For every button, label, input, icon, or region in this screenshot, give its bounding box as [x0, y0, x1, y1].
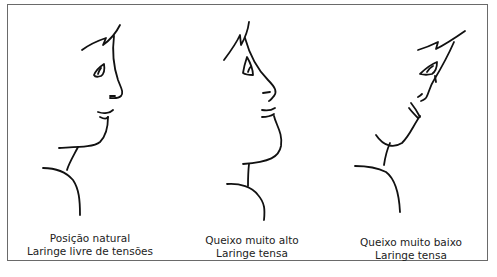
- caption-chin-low: Queixo muito baixo Laringe tensa: [331, 236, 491, 262]
- profile-chin-low-illustration: [355, 31, 465, 212]
- caption-natural-line2: Laringe livre de tensões: [10, 245, 170, 258]
- profile-natural-illustration: [43, 25, 122, 215]
- caption-natural-line1: Posição natural: [10, 232, 170, 245]
- caption-chin-high-line2: Laringe tensa: [172, 247, 332, 260]
- caption-chin-low-line2: Laringe tensa: [331, 249, 491, 262]
- caption-chin-high-line1: Queixo muito alto: [172, 234, 332, 247]
- caption-natural: Posição natural Laringe livre de tensões: [10, 232, 170, 258]
- caption-chin-low-line1: Queixo muito baixo: [331, 236, 491, 249]
- profile-chin-high-illustration: [224, 22, 281, 220]
- caption-chin-high: Queixo muito alto Laringe tensa: [172, 234, 332, 260]
